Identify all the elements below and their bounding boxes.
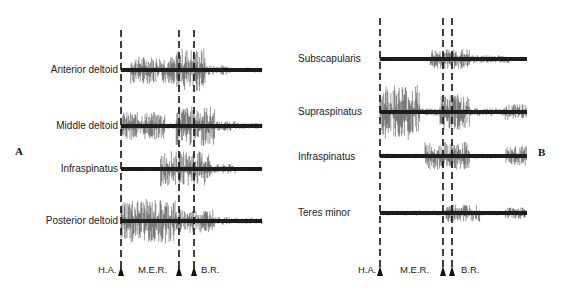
trace-label-supraspinatus: Supraspinatus (298, 106, 362, 117)
panel-a: Anterior deltoid Middle deltoid Infraspi… (0, 0, 280, 290)
panel-b: Subscapularis Supraspinatus Infraspinatu… (280, 0, 561, 290)
panel-letter-b: B (538, 146, 545, 158)
marker-label-br-b: B.R. (461, 264, 479, 275)
panel-letter-a: A (15, 145, 23, 157)
trace-label-infraspinatus: Infraspinatus (61, 163, 118, 174)
trace-label-posterior-deltoid: Posterior deltoid (46, 215, 118, 226)
trace-label-subscapularis: Subscapularis (298, 53, 361, 64)
marker-label-ha: H.A. (98, 264, 116, 275)
marker-label-mer: M.E.R. (138, 264, 167, 275)
trace-label-infraspinatus-b: Infraspinatus (298, 151, 355, 162)
marker-label-mer-b: M.E.R. (400, 264, 429, 275)
trace-label-anterior-deltoid: Anterior deltoid (51, 64, 118, 75)
trace-label-teres-minor: Teres minor (298, 207, 350, 218)
marker-label-br: B.R. (201, 264, 219, 275)
marker-label-ha-b: H.A. (358, 264, 376, 275)
trace-label-middle-deltoid: Middle deltoid (56, 120, 118, 131)
